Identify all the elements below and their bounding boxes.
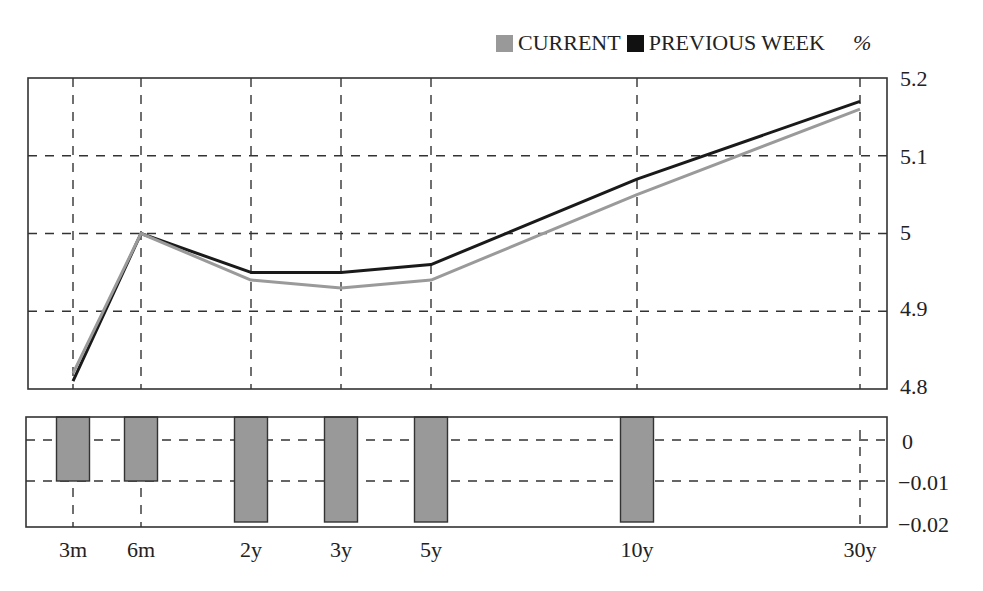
current-line [73, 109, 860, 373]
yield-lines [73, 101, 860, 381]
bar-3y [325, 417, 358, 522]
y-tick-5-1: 5.1 [900, 144, 928, 170]
yield-curve-chart [0, 0, 983, 591]
y-tick-5-0: 5 [900, 220, 911, 246]
previous-week-line [73, 101, 860, 381]
legend: CURRENT PREVIOUS WEEK % [496, 30, 871, 56]
legend-swatch-previous-week [627, 35, 644, 52]
x-tick-3y: 3y [330, 537, 352, 563]
x-tick-30y: 30y [844, 537, 877, 563]
change-bars [57, 417, 654, 522]
unit-label: % [853, 30, 871, 56]
legend-swatch-current [496, 35, 513, 52]
lower-y-tick-0: 0 [902, 429, 913, 455]
y-tick-4-8: 4.8 [900, 374, 928, 400]
x-tick-10y: 10y [621, 537, 654, 563]
upper-gridlines [28, 78, 887, 389]
legend-label-current: CURRENT [518, 30, 621, 56]
legend-item-current: CURRENT [496, 30, 621, 56]
bar-2y [235, 417, 268, 522]
lower-y-tick-minus-0-01: −0.01 [898, 470, 949, 496]
x-tick-3m: 3m [59, 537, 87, 563]
legend-label-previous-week: PREVIOUS WEEK [649, 30, 825, 56]
x-tick-2y: 2y [240, 537, 262, 563]
lower-y-tick-minus-0-02: −0.02 [898, 512, 949, 538]
bar-3m [57, 417, 90, 481]
bar-6m [125, 417, 158, 481]
x-tick-5y: 5y [420, 537, 442, 563]
bar-10y [621, 417, 654, 522]
y-tick-5-2: 5.2 [900, 66, 928, 92]
y-tick-4-9: 4.9 [900, 296, 928, 322]
bar-5y [415, 417, 448, 522]
x-tick-6m: 6m [127, 537, 155, 563]
legend-item-previous-week: PREVIOUS WEEK [627, 30, 825, 56]
